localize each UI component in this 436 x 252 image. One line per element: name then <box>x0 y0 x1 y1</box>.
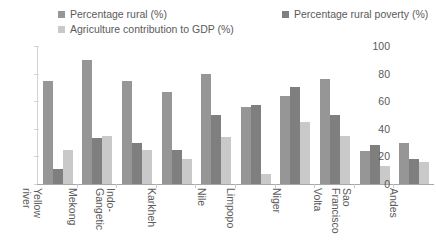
legend-entry-1[interactable]: Percentage rural poverty (%) <box>282 9 428 20</box>
bar-group <box>276 46 316 184</box>
bar-cluster <box>280 46 310 184</box>
bar-series-0[interactable] <box>320 79 330 184</box>
legend-swatch-square <box>58 11 65 18</box>
bar-series-1[interactable] <box>92 138 102 184</box>
x-axis-label-line1: Andes <box>388 188 400 218</box>
bar-group <box>196 46 236 184</box>
legend-entry-2[interactable]: Agriculture contribution to GDP (%) <box>58 24 234 35</box>
bar-series-1[interactable] <box>53 169 63 184</box>
bar-series-0[interactable] <box>201 74 211 184</box>
bar-series-2[interactable] <box>182 159 192 184</box>
bar-series-1[interactable] <box>290 87 300 184</box>
bar-series-2[interactable] <box>102 136 112 184</box>
x-axis-label: SaoFrancisco <box>330 188 352 234</box>
bar-group <box>236 46 276 184</box>
x-axis-label-line2: river <box>21 188 32 218</box>
bar-cluster <box>43 46 73 184</box>
bar-series-2[interactable] <box>419 162 429 184</box>
x-axis-label: Nile <box>196 188 207 206</box>
bar-series-0[interactable] <box>82 60 92 184</box>
bar-cluster <box>122 46 152 184</box>
x-axis-label-line1: Nile <box>196 188 208 206</box>
x-axis-label: Limpopo <box>225 188 236 228</box>
bar-groups <box>38 46 434 184</box>
bar-group <box>394 46 434 184</box>
bar-series-1[interactable] <box>330 115 340 184</box>
x-axis-label-cell: Limpopo <box>236 188 276 252</box>
y-axis-tick-label: 60 <box>364 96 390 106</box>
x-axis-label-cell: Karkheh <box>157 188 197 252</box>
x-axis-label-cell: Andes <box>394 188 434 252</box>
bar-cluster <box>360 46 390 184</box>
legend-label: Percentage rural poverty (%) <box>294 9 428 20</box>
bar-series-0[interactable] <box>122 81 132 185</box>
bar-series-2[interactable] <box>142 150 152 185</box>
x-axis-label-line1: Niger <box>272 188 284 213</box>
y-axis-tick-label: 100 <box>364 41 390 51</box>
x-axis-label: Mekong <box>68 188 79 225</box>
x-axis-label: Indo-Gangetic <box>94 188 116 230</box>
legend-entry-0[interactable]: Percentage rural (%) <box>58 9 167 20</box>
plot-area: 100806040200 <box>38 46 434 184</box>
x-axis-label-cell: Niger <box>276 188 316 252</box>
bar-chart: Percentage rural (%)Percentage rural pov… <box>0 0 436 252</box>
legend-label: Percentage rural (%) <box>70 9 167 20</box>
x-axis-label-line1: Limpopo <box>225 188 237 228</box>
bar-group <box>315 46 355 184</box>
bar-series-2[interactable] <box>261 174 271 184</box>
x-axis-label-line1: Mekong <box>68 188 80 225</box>
x-axis-label-line1: Indo- <box>105 188 117 212</box>
x-axis-label-line2: Francisco <box>330 188 341 234</box>
x-axis-label-line1: Volta <box>312 188 324 211</box>
x-axis-label-line1: Karkheh <box>146 188 158 227</box>
bar-group <box>117 46 157 184</box>
bar-cluster <box>162 46 192 184</box>
y-axis-tick-label: 20 <box>364 151 390 161</box>
bar-series-0[interactable] <box>399 143 409 184</box>
y-axis-tick-label: 40 <box>364 124 390 134</box>
bar-series-0[interactable] <box>162 92 172 184</box>
bar-cluster <box>399 46 429 184</box>
legend-swatch-square <box>282 11 289 18</box>
bar-series-0[interactable] <box>280 96 290 184</box>
x-axis-label: Yellowriver <box>21 188 43 218</box>
x-axis-label: Andes <box>388 188 399 218</box>
legend-swatch-square <box>58 26 65 33</box>
bar-series-1[interactable] <box>132 143 142 184</box>
x-axis-category-labels: YellowriverMekongIndo-GangeticKarkhehNil… <box>38 188 434 252</box>
bar-series-2[interactable] <box>340 136 350 184</box>
x-axis-label-line2: Gangetic <box>94 188 105 230</box>
bar-series-2[interactable] <box>300 122 310 184</box>
bar-series-0[interactable] <box>241 107 251 184</box>
y-axis-tick-label: 80 <box>364 69 390 79</box>
x-axis-label: Volta <box>312 188 323 211</box>
chart-legend: Percentage rural (%)Percentage rural pov… <box>58 9 430 39</box>
bar-cluster <box>241 46 271 184</box>
x-axis-label: Niger <box>272 188 283 213</box>
bar-series-0[interactable] <box>43 81 53 185</box>
bar-series-1[interactable] <box>409 159 419 184</box>
bar-cluster <box>201 46 231 184</box>
x-axis-label-line1: Sao <box>341 188 353 207</box>
bar-series-1[interactable] <box>211 115 221 184</box>
bar-group <box>157 46 197 184</box>
bar-series-1[interactable] <box>172 150 182 185</box>
bar-group <box>355 46 395 184</box>
x-axis-label: Karkheh <box>146 188 157 227</box>
x-axis-label-line1: Yellow <box>32 188 44 218</box>
bar-group <box>38 46 78 184</box>
bar-series-1[interactable] <box>251 105 261 184</box>
bar-series-2[interactable] <box>63 150 73 185</box>
bar-cluster <box>320 46 350 184</box>
bar-cluster <box>82 46 112 184</box>
legend-label: Agriculture contribution to GDP (%) <box>70 24 234 35</box>
bar-group <box>78 46 118 184</box>
bar-series-2[interactable] <box>221 137 231 184</box>
